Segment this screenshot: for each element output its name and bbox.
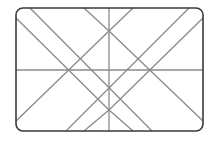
line-figure-canvas [0, 0, 217, 141]
